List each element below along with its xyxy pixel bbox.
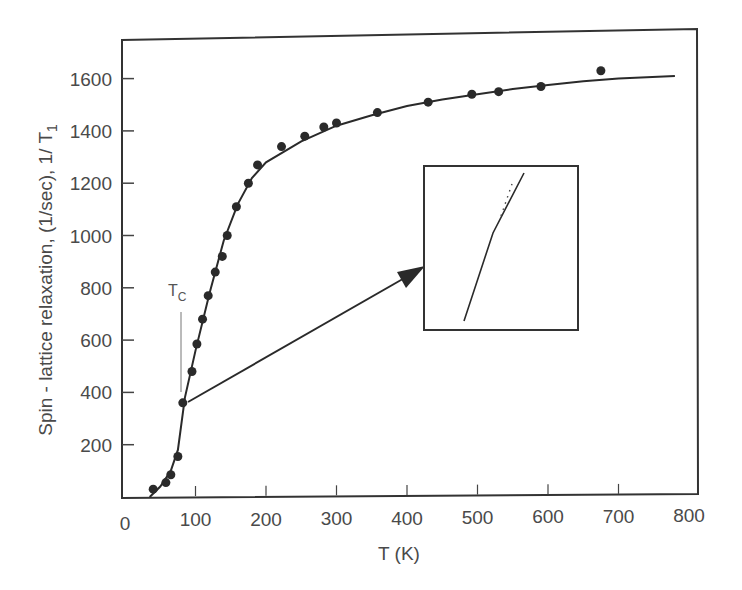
data-point (204, 291, 213, 300)
data-point (244, 179, 253, 188)
data-point (178, 398, 187, 407)
data-point (332, 119, 341, 128)
data-point (300, 132, 309, 141)
x-tick-label: 600 (532, 506, 564, 527)
data-point (149, 485, 158, 494)
data-point (218, 252, 227, 261)
data-point (373, 108, 382, 117)
x-tick-label: 800 (673, 505, 705, 526)
y-tick-label: 1400 (70, 121, 112, 142)
chart: 2004006008001000120014001600010020030040… (0, 0, 742, 590)
x-axis-title: T (K) (378, 543, 420, 564)
y-tick-label: 400 (80, 382, 112, 403)
inset-box (424, 166, 578, 330)
data-point (467, 90, 476, 99)
y-axis-title-subscript: 1 (44, 124, 60, 132)
x-tick-label: 700 (603, 506, 635, 527)
data-point (198, 315, 207, 324)
data-point (596, 66, 605, 75)
data-point (319, 122, 328, 131)
tc-label: TC (168, 282, 187, 304)
y-tick-label: 600 (80, 330, 112, 351)
svg-text:Spin - lattice relaxation, (1/: Spin - lattice relaxation, (1/sec), 1/ T… (35, 124, 60, 436)
inset-arrow (188, 266, 425, 402)
y-tick-label: 1200 (70, 173, 112, 194)
data-point (494, 87, 503, 96)
x-tick-label: 400 (391, 508, 423, 529)
data-point (161, 478, 170, 487)
data-point (192, 340, 201, 349)
x-tick-label: 100 (180, 509, 212, 530)
x-tick-label: 200 (250, 509, 282, 530)
y-tick-label: 1600 (70, 69, 112, 90)
x-tick-label: 300 (321, 508, 353, 529)
data-point (166, 470, 175, 479)
data-point (232, 202, 241, 211)
data-point (223, 231, 232, 240)
data-point (253, 160, 262, 169)
data-point (424, 98, 433, 107)
y-axis-ticks (122, 79, 134, 445)
y-tick-label: 200 (80, 435, 112, 456)
tc-marker: TC (168, 282, 187, 392)
y-axis-title: Spin - lattice relaxation, (1/sec), 1/ T… (35, 124, 60, 436)
x-tick-label: 0 (120, 513, 131, 534)
y-tick-label: 1000 (70, 226, 112, 247)
fit-curve (150, 76, 675, 497)
x-tick-label: 500 (462, 507, 494, 528)
data-point (536, 82, 545, 91)
data-point (211, 268, 220, 277)
plot-frame (122, 29, 698, 498)
data-point (187, 367, 196, 376)
tick-labels: 2004006008001000120014001600010020030040… (70, 69, 705, 534)
y-axis-title-text: Spin - lattice relaxation, (1/sec), 1/ T (35, 132, 56, 436)
y-tick-label: 800 (80, 278, 112, 299)
data-point (173, 452, 182, 461)
data-point (277, 142, 286, 151)
